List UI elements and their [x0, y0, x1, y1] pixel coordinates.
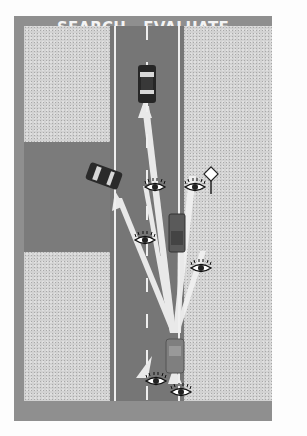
- car-ahead: [138, 65, 156, 103]
- eye-icon: [146, 372, 166, 385]
- driver-car: [166, 339, 184, 373]
- car-oncoming: [169, 214, 185, 252]
- car-from-lot: [85, 162, 123, 191]
- scene-overlay: [24, 26, 272, 401]
- sight-lines: [112, 98, 206, 384]
- eye-icon: [135, 231, 155, 244]
- road-scene: [24, 26, 272, 401]
- eye-icon: [171, 383, 191, 396]
- warning-sign-icon: [204, 167, 218, 194]
